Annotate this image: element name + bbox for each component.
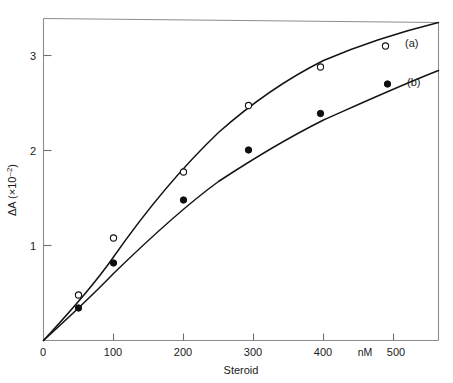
x-tick-label-400: 400 xyxy=(314,346,332,358)
y-tick-label-1: 1 xyxy=(30,240,36,252)
data-point-b-500 xyxy=(384,81,390,87)
x-axis-unit-label: nM xyxy=(358,346,373,358)
chart-figure: 1 2 3 0 100 200 300 400 nM 500 Steroid Δ… xyxy=(0,0,453,383)
x-tick-label-0: 0 xyxy=(40,346,46,358)
y-axis-title-suffix: ) xyxy=(6,164,18,168)
data-point-b-300 xyxy=(245,147,251,153)
curve-series-b xyxy=(44,71,439,341)
x-tick-label-500: 500 xyxy=(387,346,405,358)
y-axis-ticks xyxy=(44,56,52,246)
data-point-a-200 xyxy=(180,169,186,175)
data-point-a-50 xyxy=(75,292,81,298)
chart-canvas: 1 2 3 0 100 200 300 400 nM 500 Steroid Δ… xyxy=(0,0,453,383)
y-axis-title-prefix: ΔA (×10 xyxy=(6,177,18,216)
y-tick-label-2: 2 xyxy=(30,145,36,157)
data-point-a-400 xyxy=(317,64,323,70)
y-axis-title: ΔA (×10–2) xyxy=(5,164,18,216)
x-tick-label-200: 200 xyxy=(174,346,192,358)
data-point-b-50 xyxy=(75,305,81,311)
x-tick-label-300: 300 xyxy=(244,346,262,358)
plot-frame xyxy=(44,19,439,341)
data-point-a-500 xyxy=(382,43,388,49)
series-label-a: (a) xyxy=(405,37,418,49)
series-a-points xyxy=(75,43,388,298)
svg-text:ΔA (×10–2): ΔA (×10–2) xyxy=(5,164,18,216)
data-point-a-300 xyxy=(245,102,251,108)
data-point-b-400 xyxy=(317,110,323,116)
x-tick-label-100: 100 xyxy=(104,346,122,358)
series-label-b: (b) xyxy=(407,76,420,88)
y-axis-tick-labels: 1 2 3 xyxy=(30,50,36,252)
series-b-points xyxy=(75,81,390,311)
x-axis-title: Steroid xyxy=(224,364,259,376)
curve-series-a xyxy=(44,23,439,341)
x-axis-ticks xyxy=(114,334,394,341)
y-tick-label-3: 3 xyxy=(30,50,36,62)
x-axis-tick-labels: 0 100 200 300 400 nM 500 xyxy=(40,346,405,358)
top-frame-line xyxy=(44,19,439,23)
data-point-b-200 xyxy=(180,197,186,203)
data-point-a-100 xyxy=(110,235,116,241)
data-point-b-100 xyxy=(110,260,116,266)
